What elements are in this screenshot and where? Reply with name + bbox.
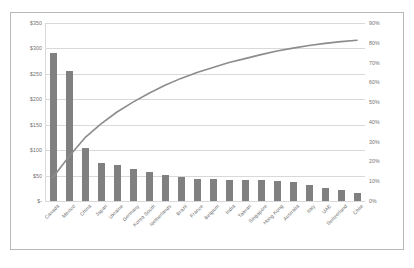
x-axis-tick-label: Italy [305, 203, 316, 214]
left-axis-line [45, 23, 46, 201]
chart-frame: $350$300$250$200$150$100$50$- 90%80%70%6… [10, 12, 404, 250]
bar [322, 188, 329, 201]
bar [258, 180, 265, 201]
pareto-chart: $350$300$250$200$150$100$50$- 90%80%70%6… [0, 0, 414, 268]
y-axis-left-tick-label: $50 [33, 173, 42, 179]
bar [178, 177, 185, 201]
y-axis-right-tick-label: 30% [369, 139, 380, 145]
gridline [45, 99, 365, 100]
y-axis-left-tick-label: $350 [30, 20, 42, 26]
bar [274, 181, 281, 201]
y-axis-left-tick-label: $250 [30, 71, 42, 77]
x-axis-tick-label: Belgium [203, 203, 221, 221]
x-axis-category-labels: CanadaMexicoChinaJapanUkraineGermanyKore… [45, 203, 365, 253]
y-axis-left-tick-label: $200 [30, 96, 42, 102]
y-axis-right-tick-label: 40% [369, 119, 380, 125]
y-axis-right-tick-label: 60% [369, 79, 380, 85]
gridline [45, 150, 365, 151]
bar [66, 71, 73, 201]
bar [210, 179, 217, 201]
bar [194, 179, 201, 201]
bar [242, 180, 249, 201]
bar [114, 165, 121, 201]
x-axis-tick-label: Australia [282, 203, 301, 222]
gridline [45, 48, 365, 49]
bar [354, 193, 361, 201]
x-axis-tick-label: China [78, 203, 92, 217]
y-axis-left-tick-label: $- [37, 198, 42, 204]
gridline [45, 125, 365, 126]
gridline [45, 176, 365, 177]
y-axis-right-tick-label: 80% [369, 40, 380, 46]
bar [130, 169, 137, 201]
plot-area: $350$300$250$200$150$100$50$- 90%80%70%6… [45, 23, 365, 201]
gridline [45, 74, 365, 75]
y-axis-right-tick-label: 0% [369, 198, 377, 204]
y-axis-left-tick-label: $150 [30, 122, 42, 128]
y-axis-right-tick-label: 50% [369, 99, 380, 105]
bar [98, 163, 105, 201]
bar [306, 185, 313, 201]
y-axis-left-tick-label: $300 [30, 45, 42, 51]
x-axis-tick-label: Mexico [60, 203, 76, 219]
y-axis-right-tick-label: 70% [369, 60, 380, 66]
bar [226, 180, 233, 201]
bar [338, 190, 345, 201]
x-axis-tick-label: UAE [321, 203, 333, 215]
y-axis-right-tick-label: 10% [369, 178, 380, 184]
cumulative-line-series [45, 23, 365, 201]
gridline [45, 201, 365, 202]
bar [146, 172, 153, 202]
gridline [45, 23, 365, 24]
bar [162, 175, 169, 201]
x-axis-tick-label: Brazil [175, 203, 189, 217]
cumulative-line-path [53, 40, 357, 177]
x-axis-tick-label: Canada [43, 203, 60, 220]
x-axis-tick-label: Chile [352, 203, 365, 216]
bar [82, 148, 89, 201]
y-axis-right-tick-label: 90% [369, 20, 380, 26]
x-axis-tick-label: India [224, 203, 236, 215]
y-axis-right-tick-label: 20% [369, 158, 380, 164]
y-axis-left-tick-label: $100 [30, 147, 42, 153]
bar [290, 182, 297, 201]
bar [50, 53, 57, 202]
